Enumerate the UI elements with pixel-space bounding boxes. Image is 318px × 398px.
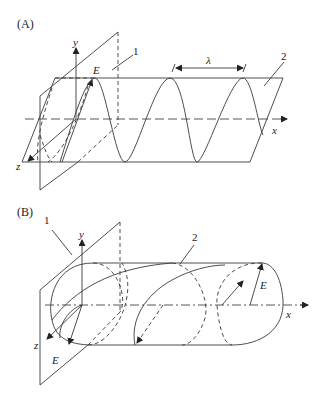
y-axis-label-b: y [78,228,84,240]
y-axis-label-a: y [72,36,78,48]
callout-1-a: 1 [133,45,139,57]
panel-a-label: (A) [17,17,34,31]
callout-2-a: 2 [281,50,287,62]
e-vector-b-right-1 [222,281,243,305]
callout-line-1-a [112,55,133,70]
callout-line-2-b [180,245,194,264]
callout-1-b: 1 [44,214,50,226]
e-field-label-b-right: E [259,279,267,291]
polarization-diagram: (A) x y z E [0,0,318,398]
z-axis-a [28,119,76,161]
panel-b: (B) x y z [17,205,308,385]
z-axis-label-a: z [15,160,21,172]
wave-a [60,78,263,162]
cylinder [51,263,283,345]
e-field-vector-a [62,80,92,162]
x-axis-label-b: x [285,308,291,320]
callout-line-1-b [52,230,72,255]
plane-1-vertical [40,32,118,190]
wavelength-label: λ [205,54,211,66]
e-field-label-b-left: E [51,354,59,366]
z-axis-label-b: z [33,339,39,351]
e-field-label-a: E [92,64,100,76]
panel-a: (A) x y z E [15,17,287,190]
x-axis-label-a: x [271,124,277,136]
plane-2-horizontal [22,78,283,162]
panel-b-label: (B) [17,205,33,219]
callout-2-b: 2 [192,231,198,243]
